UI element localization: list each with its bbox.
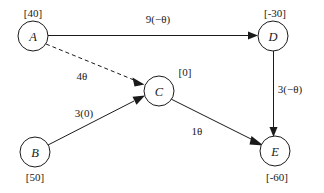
edge-label-c-to-e: 1θ [192,125,203,137]
edge-a-to-d [48,32,258,40]
network-flow-diagram: A [40] B [50] C [0] D [-30] E [-60] 9(− [0,0,324,193]
node-a[interactable]: A [40] [18,7,48,51]
diagram-canvas: A [40] B [50] C [0] D [-30] E [-60] 9(− [0,0,324,193]
edge-c-to-e-line [171,99,253,140]
edge-a-to-c-arrowhead [133,78,145,87]
edge-label-a-to-c: 4θ [77,70,88,82]
edge-label-b-to-c: 3(0) [75,107,94,120]
edge-b-to-c-arrowhead [133,96,146,105]
edge-c-to-e [171,99,264,146]
node-d-label: D [267,30,277,44]
edge-a-to-c [46,44,145,87]
node-c-label: C [155,85,164,99]
node-e-label: E [270,145,279,159]
node-b-supply: [50] [26,171,44,183]
node-c[interactable]: C [0] [144,66,191,106]
edge-b-to-c [48,96,145,146]
node-a-label: A [28,30,37,44]
edge-label-d-to-e: 3(−θ) [278,83,303,96]
node-a-supply: [40] [24,7,42,19]
edge-a-to-c-line [46,44,134,80]
node-b[interactable]: B [50] [20,137,50,183]
edge-d-to-e-arrowhead [270,127,278,137]
edge-a-to-d-arrowhead [248,32,258,40]
edge-d-to-e [270,51,278,137]
node-e[interactable]: E [-60] [260,136,290,183]
node-b-label: B [31,146,39,160]
node-c-supply: [0] [179,66,192,78]
node-d[interactable]: D [-30] [258,7,288,51]
edge-label-a-to-d: 9(−θ) [146,13,171,26]
node-d-supply: [-30] [264,7,286,19]
node-e-supply: [-60] [266,171,288,183]
